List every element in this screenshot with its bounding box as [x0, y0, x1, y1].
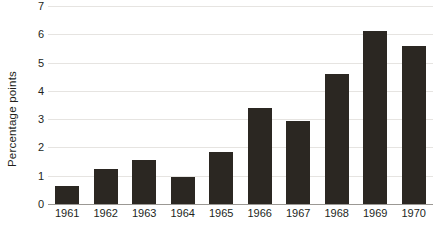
x-tick-label: 1970 — [395, 208, 434, 219]
x-tick-label: 1967 — [279, 208, 318, 219]
x-tick-label: 1961 — [48, 208, 87, 219]
bar-slot — [395, 46, 434, 204]
x-tick-label: 1963 — [125, 208, 164, 219]
bar-slot — [202, 152, 241, 204]
y-tick-label: 3 — [38, 114, 44, 125]
y-axis-title: Percentage points — [0, 0, 24, 238]
bar — [55, 186, 79, 204]
bar-slot — [318, 74, 357, 204]
x-tick-label: 1968 — [318, 208, 357, 219]
y-tick-label: 4 — [38, 85, 44, 96]
bar-slot — [48, 186, 87, 204]
bars-layer — [48, 6, 433, 204]
y-axis-tick-labels: 01234567 — [26, 6, 44, 204]
bar-slot — [164, 177, 203, 204]
bar — [209, 152, 233, 204]
y-tick-label: 5 — [38, 57, 44, 68]
y-tick-label: 6 — [38, 29, 44, 40]
y-tick-label: 1 — [38, 170, 44, 181]
x-tick-label: 1966 — [241, 208, 280, 219]
x-axis-tick-labels: 1961196219631964196519661967196819691970 — [48, 208, 433, 230]
bar-chart: Percentage points 01234567 1961196219631… — [0, 0, 440, 238]
y-tick-label: 0 — [38, 199, 44, 210]
x-tick-label: 1962 — [87, 208, 126, 219]
x-tick-label: 1965 — [202, 208, 241, 219]
x-tick-label: 1969 — [356, 208, 395, 219]
bar — [325, 74, 349, 204]
bar-slot — [279, 121, 318, 204]
y-tick-label: 7 — [38, 1, 44, 12]
plot-area — [48, 6, 433, 204]
bar — [94, 169, 118, 204]
bar — [171, 177, 195, 204]
bar — [286, 121, 310, 204]
bar-slot — [241, 108, 280, 204]
bar-slot — [356, 31, 395, 204]
bar — [248, 108, 272, 204]
bar-slot — [87, 169, 126, 204]
bar-slot — [125, 160, 164, 204]
bar — [363, 31, 387, 204]
x-tick-label: 1964 — [164, 208, 203, 219]
bar — [132, 160, 156, 204]
y-tick-label: 2 — [38, 142, 44, 153]
axis-baseline — [48, 204, 433, 205]
bar — [402, 46, 426, 204]
